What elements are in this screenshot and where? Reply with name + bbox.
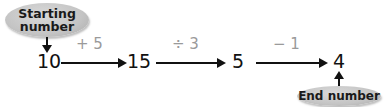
operation-divide-3: ÷ 3: [172, 35, 199, 53]
end-number-bubble: End number: [297, 86, 381, 106]
starting-number-bubble: Starting number: [5, 3, 89, 37]
start-value: 10: [37, 50, 61, 72]
right-arrow-icon: [61, 62, 119, 64]
operation-subtract-1: − 1: [273, 35, 300, 53]
right-arrow-icon: [256, 62, 320, 64]
end-number-label: End number: [298, 90, 380, 103]
step-2-value: 5: [232, 50, 244, 72]
starting-number-label-line2: number: [18, 20, 76, 33]
end-value: 4: [333, 50, 345, 72]
right-arrow-icon: [156, 62, 218, 64]
step-1-value: 15: [127, 50, 151, 72]
operation-add-5: + 5: [76, 35, 103, 53]
down-arrow-icon: [46, 37, 48, 46]
